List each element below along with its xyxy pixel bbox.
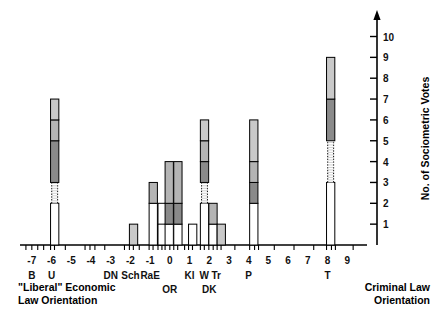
bar-4-P-segment-0-dark [250,182,258,203]
x-tick-label-8: 8 [325,255,331,266]
x-tick-label-2: 2 [206,255,212,266]
x-tick-label--1: -1 [146,255,155,266]
caption-right-line1: Criminal Law [365,281,431,293]
bar-group-bar-1-Kl [189,224,197,245]
bar-neg6-U-white-base [51,203,59,245]
bar-neg1-Ra-white-base [149,203,157,245]
bar-0-O-segment-0-dark [165,203,173,224]
judge-label-T: T [324,270,330,281]
caption-left-line1: "Liberal" Economic [18,281,116,293]
y-tick-label-6: 6 [383,115,389,126]
bar-8-T-white-base [327,182,335,245]
bar-0-O-segment-1-medium [165,162,173,204]
bar-175-W-white-base [200,203,208,245]
y-tick-label-8: 8 [383,73,389,84]
bar-175-W-segment-1-medium [200,141,208,162]
bar-8-T-segment-0-dark [327,99,335,141]
bar-neg6-U-segment-0-dark [51,141,59,183]
y-axis-title: No. of Sociometric Votes [419,77,431,201]
bar-175-W-segment-2-light [200,120,208,141]
y-tick-label-3: 3 [383,177,389,188]
bar-0-R-segment-1-medium [174,162,182,204]
bar-group-bar-neg6-U [51,99,59,245]
bar-group-bar-neg1-Ra [149,182,157,245]
judge-label-RaE: RaE [140,270,160,281]
x-tick-label--3: -3 [106,255,115,266]
judge-label-W: W [200,270,210,281]
bar-2-DK-segment-0-medium [209,203,217,224]
bar-group-bar-4-P [250,120,258,245]
judge-label-OR: OR [162,284,178,295]
bar-group-bar-175-W [200,120,208,245]
bar-2-DK-white-base [209,224,217,245]
caption-left-line2: Law Orientation [18,294,97,306]
x-tick-label-5: 5 [266,255,272,266]
bar-group-bar-8-T [327,57,335,245]
bar-group-bar-0-R [174,162,182,245]
y-tick-label-2: 2 [383,198,389,209]
judge-label-B: B [28,270,35,281]
bar-8-T-segment-1-light [327,57,335,99]
y-tick-label-9: 9 [383,52,389,63]
x-tick-label-0: 0 [167,255,173,266]
bar-neg6-U-segment-1-medium [51,120,59,141]
bar-group-bar-0-O [165,162,173,245]
x-tick-label--6: -6 [47,255,56,266]
judge-label-Sch: Sch [121,270,139,281]
bar-neg1-Ra-segment-0-medium [149,182,157,203]
x-tick-label--7: -7 [27,255,36,266]
judge-label-U: U [48,270,55,281]
y-tick-label-4: 4 [383,157,389,168]
caption-right-line2: Orientation [374,294,430,306]
x-tick-label-7: 7 [305,255,311,266]
judge-label-DK: DK [202,284,217,295]
bar-1-Kl-white-base [189,224,197,245]
x-tick-label--5: -5 [67,255,76,266]
x-tick-label-1: 1 [187,255,193,266]
bar-4-P-segment-2-light [250,120,258,162]
x-tick-label-4: 4 [246,255,252,266]
chart-root: -7-6-5-4-3-2-10123456789BUDNSchRaEORKlWT… [0,0,445,321]
y-tick-label-5: 5 [383,136,389,147]
bar-0-R-white-base [174,224,182,245]
bar-4-P-segment-1-medium [250,162,258,183]
bar-neg2-Sch-segment-0-light [129,224,137,245]
bar-group-bar-neg2-Sch [129,224,137,245]
x-tick-label-6: 6 [285,255,291,266]
bar-175-W-segment-0-dark [200,162,208,183]
y-tick-label-7: 7 [383,94,389,105]
x-tick-label-9: 9 [344,255,350,266]
bar-0-R-segment-0-dark [174,203,182,224]
bar-235-Tr-segment-0-light [217,224,225,245]
bar-group-bar-2-DK [209,203,217,245]
sociometric-votes-chart: -7-6-5-4-3-2-10123456789BUDNSchRaEORKlWT… [0,0,445,321]
judge-label-P: P [245,270,252,281]
judge-label-DN: DN [103,270,117,281]
bar-0-O-white-base [165,224,173,245]
y-tick-label-1: 1 [383,219,389,230]
y-axis-arrow-icon [373,10,380,20]
judge-label-Kl: Kl [185,270,195,281]
judge-label-Tr: Tr [211,270,221,281]
bar-group-bar-235-Tr [217,224,225,245]
y-tick-label-10: 10 [383,32,395,43]
bar-neg6-U-segment-2-light [51,99,59,120]
x-tick-label--2: -2 [126,255,135,266]
bar-4-P-white-base [250,203,258,245]
x-tick-label-3: 3 [226,255,232,266]
x-tick-label--4: -4 [87,255,96,266]
